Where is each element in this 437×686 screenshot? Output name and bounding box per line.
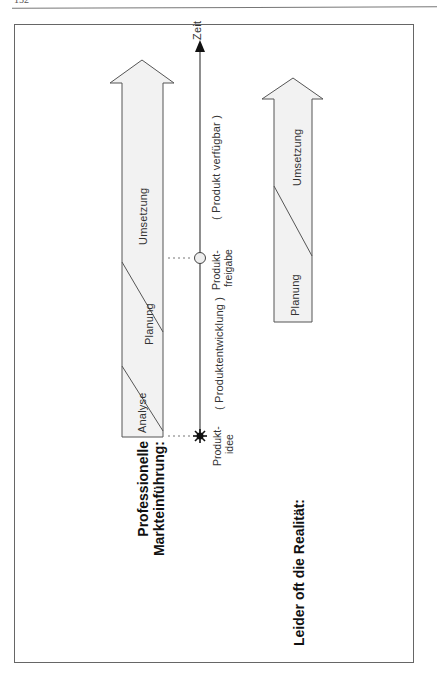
professional-title: Professionelle Markteinführung: — [135, 441, 167, 596]
professional-title-line2: Markteinführung: — [151, 441, 167, 596]
segment-label-analyse: Analyse — [136, 392, 148, 433]
milestone-circle-icon — [195, 253, 206, 264]
start-label: Produkt- idee — [211, 426, 235, 466]
reality-title: Leider oft die Realität: — [291, 499, 307, 646]
milestone-label-line2: freigabe — [222, 249, 234, 290]
phase-label-product-development: ( Produktentwicklung ) — [213, 297, 225, 410]
axis-label-zeit: Zeit — [191, 21, 203, 40]
segment-label-planung: Planung — [143, 303, 155, 345]
milestone-label-line1: Produkt- — [210, 249, 222, 290]
start-burst-icon — [193, 429, 207, 443]
segment-label-planung-reality: Planung — [289, 274, 301, 316]
phase-label-product-available: ( Produkt verfügbar ) — [210, 115, 222, 220]
milestone-label: Produkt- freigabe — [210, 249, 234, 290]
segment-label-umsetzung-reality: Umsetzung — [291, 129, 303, 186]
segment-label-umsetzung: Umsetzung — [137, 188, 149, 245]
professional-arrow — [110, 60, 174, 437]
start-label-line2: idee — [223, 426, 235, 466]
arrowhead-icon — [195, 40, 205, 52]
professional-title-line1: Professionelle — [135, 441, 151, 596]
timeline-axis — [168, 40, 207, 443]
start-label-line1: Produkt- — [211, 426, 223, 466]
